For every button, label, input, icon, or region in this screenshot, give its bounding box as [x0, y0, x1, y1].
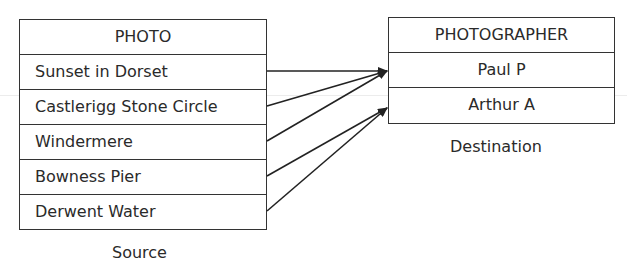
arrow-derwent-to-arthur [267, 108, 387, 211]
arrow-bowness-to-arthur [267, 108, 387, 176]
arrow-windermere-to-paul [267, 71, 387, 141]
mapping-arrows [0, 0, 627, 276]
arrow-castlerigg-to-paul [267, 71, 387, 106]
